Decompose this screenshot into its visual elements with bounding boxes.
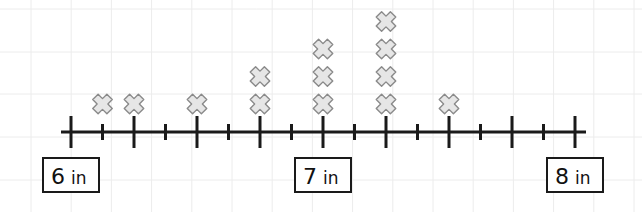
x-marks bbox=[88, 7, 463, 118]
tick-label-unit: in bbox=[323, 168, 339, 188]
x-mark bbox=[246, 62, 274, 90]
x-mark bbox=[372, 62, 400, 90]
tick-label-unit: in bbox=[575, 168, 591, 188]
tick-label-unit: in bbox=[71, 168, 87, 188]
tick-labels: 6in7in8in bbox=[43, 158, 603, 192]
tick-label-7: 7in bbox=[295, 158, 351, 192]
tick-label-8: 8in bbox=[547, 158, 603, 192]
tick-label-6: 6in bbox=[43, 158, 99, 192]
x-mark bbox=[309, 62, 337, 90]
x-mark bbox=[372, 35, 400, 63]
tick-label-number: 7 bbox=[303, 164, 317, 189]
tick-label-number: 8 bbox=[555, 164, 569, 189]
x-mark bbox=[372, 7, 400, 35]
line-plot: 6in7in8in bbox=[0, 0, 642, 212]
tick-label-number: 6 bbox=[51, 164, 65, 189]
x-mark bbox=[309, 35, 337, 63]
